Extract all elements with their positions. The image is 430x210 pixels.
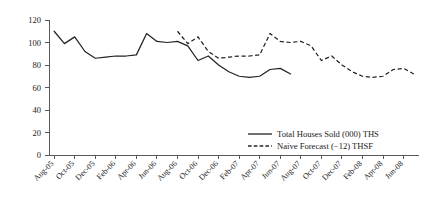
line-chart: 020406080100120 Aug-05Oct-05Dec-05Feb-06… xyxy=(0,0,430,210)
y-axis: 020406080100120 xyxy=(28,15,49,160)
y-axis-tick-label: 20 xyxy=(33,128,42,138)
series-total-houses-sold xyxy=(54,31,290,77)
y-axis-tick-label: 120 xyxy=(28,15,41,25)
x-axis-ticks xyxy=(54,155,403,159)
x-axis-tick-label: Oct-05 xyxy=(54,159,76,181)
x-axis-tick-label: Dec-05 xyxy=(74,159,97,182)
y-axis-ticks xyxy=(45,20,49,155)
y-axis-tick-label: 80 xyxy=(33,60,42,70)
x-axis-tick-label: Feb-07 xyxy=(218,159,240,181)
x-axis-tick-label: Apr-07 xyxy=(239,159,262,182)
x-axis: Aug-05Oct-05Dec-05Feb-06Apr-06Jun-06Aug-… xyxy=(32,155,419,183)
x-axis-tick-label: Apr-08 xyxy=(362,159,385,182)
x-axis-tick-label: Aug-05 xyxy=(32,159,56,183)
x-axis-tick-labels: Aug-05Oct-05Dec-05Feb-06Apr-06Jun-06Aug-… xyxy=(32,159,405,183)
series-naive-forecast xyxy=(177,31,413,77)
legend: Total Houses Sold (000) THS Naive Foreca… xyxy=(248,129,379,151)
legend-label-naive-forecast: Naive Forecast (−12) THSF xyxy=(277,141,373,151)
x-axis-tick-label: Feb-08 xyxy=(341,159,363,181)
legend-label-total-houses-sold: Total Houses Sold (000) THS xyxy=(277,129,379,139)
x-axis-tick-label: Apr-06 xyxy=(115,159,138,182)
chart-canvas: 020406080100120 Aug-05Oct-05Dec-05Feb-06… xyxy=(0,0,430,210)
y-axis-tick-label: 40 xyxy=(33,105,42,115)
y-axis-tick-labels: 020406080100120 xyxy=(28,15,41,160)
data-series-group xyxy=(54,31,414,77)
x-axis-tick-label: Oct-06 xyxy=(177,159,199,181)
x-axis-tick-label: Dec-06 xyxy=(197,159,220,182)
x-axis-tick-label: Aug-07 xyxy=(279,159,303,183)
x-axis-tick-label: Jun-08 xyxy=(383,159,405,181)
x-axis-tick-label: Feb-06 xyxy=(95,159,117,181)
x-axis-tick-label: Aug-06 xyxy=(155,159,179,183)
y-axis-tick-label: 0 xyxy=(37,150,41,160)
x-axis-tick-label: Dec-07 xyxy=(320,159,343,182)
y-axis-tick-label: 60 xyxy=(33,83,42,93)
y-axis-tick-label: 100 xyxy=(28,38,41,48)
x-axis-tick-label: Oct-07 xyxy=(301,159,323,181)
